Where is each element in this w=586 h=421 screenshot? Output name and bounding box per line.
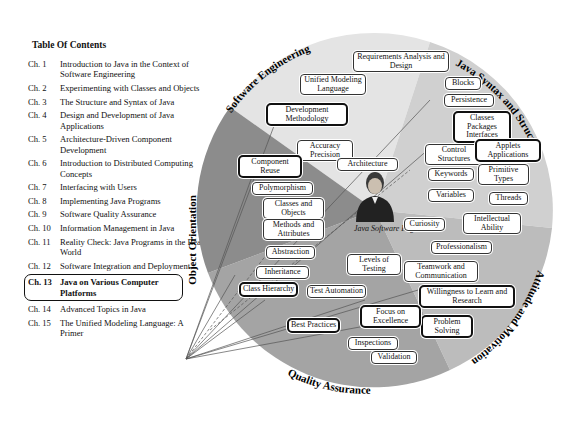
node-architecture: Architecture [337,158,398,171]
label-object-orientation: Object Orientation [186,195,198,285]
node-test-auto: Test Automation [307,285,366,298]
node-problem: Problem Solving [421,315,473,338]
node-professionalism: Professionalism [431,241,492,254]
node-best: Best Practices [287,318,340,333]
node-variables: Variables [428,189,474,202]
node-willingness: Willingness to Learn and Research [419,285,515,308]
node-component: Component Reuse [238,155,302,178]
node-validation: Validation [371,351,417,364]
node-curiosity: Curiosity [404,218,445,231]
node-methods: Methods and Attributes [263,219,324,240]
node-classes-pkg: Classes Packages Interfaces [453,111,511,143]
node-class-hier: Class Hierarchy [239,282,298,297]
node-uml: Unified Modeling Language [300,74,366,95]
node-persistence: Persistence [444,94,494,107]
node-applets: Applets Applications [475,139,541,162]
node-threads: Threads [489,192,528,205]
node-primitive: Primitive Types [478,164,529,185]
node-polymorphism: Polymorphism [252,182,313,195]
node-req: Requirements Analysis and Design [353,51,449,72]
node-keywords: Keywords [428,168,474,181]
node-intellectual: Intellectual Ability [463,213,521,234]
node-devmeth: Development Methodology [266,103,348,126]
node-blocks: Blocks [445,77,481,90]
node-inspections: Inspections [348,337,398,350]
node-classes-obj: Classes and Objects [263,198,324,219]
node-inheritance: Inheritance [256,266,309,279]
node-levels: Levels of Testing [347,254,401,275]
node-teamwork: Teamwork and Communication [404,261,478,282]
node-abstraction: Abstraction [266,246,315,259]
node-focus: Focus on Excellence [360,305,421,328]
